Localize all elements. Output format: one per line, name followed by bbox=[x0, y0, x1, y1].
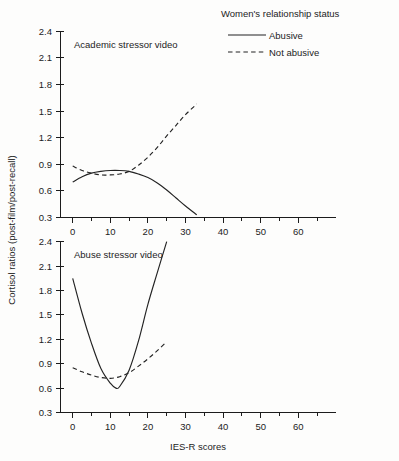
top-x-label-10: 10 bbox=[105, 226, 116, 237]
top-x-label-20: 20 bbox=[143, 226, 154, 237]
bottom-x-label-50: 50 bbox=[255, 421, 266, 432]
chart-svg: Women's relationship status Abusive Not … bbox=[0, 0, 399, 461]
legend-title: Women's relationship status bbox=[221, 8, 340, 19]
bottom-y-label-0.6: 0.6 bbox=[39, 383, 52, 394]
top-y-tick-labels: 0.3 0.6 0.9 1.2 1.5 1.8 2.1 2.4 bbox=[39, 26, 52, 223]
top-x-label-50: 50 bbox=[255, 226, 266, 237]
legend-entry-not-abusive: Not abusive bbox=[228, 47, 319, 58]
bottom-y-tick-labels: 0.3 0.6 0.9 1.2 1.5 1.8 2.1 2.4 bbox=[39, 236, 52, 418]
top-y-label-0.6: 0.6 bbox=[39, 185, 52, 196]
bottom-y-label-0.3: 0.3 bbox=[39, 407, 52, 418]
series-line-not-abusive-academic bbox=[73, 104, 197, 175]
figure-container: Women's relationship status Abusive Not … bbox=[0, 0, 399, 461]
bottom-y-label-2.4: 2.4 bbox=[39, 236, 52, 247]
y-axis-title: Cortisol ratios (post-film/post-recall) bbox=[6, 155, 17, 304]
bottom-y-label-1.2: 1.2 bbox=[39, 334, 52, 345]
top-y-label-0.3: 0.3 bbox=[39, 212, 52, 223]
top-y-label-1.5: 1.5 bbox=[39, 106, 52, 117]
bottom-x-ticks bbox=[73, 413, 317, 419]
top-y-label-1.8: 1.8 bbox=[39, 79, 52, 90]
series-line-abusive-abuse bbox=[73, 242, 167, 389]
bottom-y-label-1.5: 1.5 bbox=[39, 309, 52, 320]
panel-abuse-stressor: Abuse stressor video 0.3 0.6 0.9 1.2 1.5… bbox=[39, 236, 336, 452]
bottom-x-label-20: 20 bbox=[143, 421, 154, 432]
top-y-label-2.1: 2.1 bbox=[39, 52, 52, 63]
panel-title-academic: Academic stressor video bbox=[74, 39, 177, 50]
top-y-label-1.2: 1.2 bbox=[39, 132, 52, 143]
bottom-y-label-1.8: 1.8 bbox=[39, 285, 52, 296]
bottom-x-label-30: 30 bbox=[180, 421, 191, 432]
bottom-x-tick-labels: 0 10 20 30 40 50 60 bbox=[70, 421, 304, 432]
top-x-label-60: 60 bbox=[293, 226, 304, 237]
top-y-label-0.9: 0.9 bbox=[39, 159, 52, 170]
bottom-y-label-0.9: 0.9 bbox=[39, 358, 52, 369]
bottom-x-label-10: 10 bbox=[105, 421, 116, 432]
panel-title-abuse: Abuse stressor video bbox=[74, 249, 163, 260]
top-x-label-0: 0 bbox=[70, 226, 75, 237]
legend-entry-abusive: Abusive bbox=[228, 30, 303, 41]
bottom-y-label-2.1: 2.1 bbox=[39, 261, 52, 272]
bottom-x-label-40: 40 bbox=[218, 421, 229, 432]
legend-label-abusive: Abusive bbox=[269, 30, 303, 41]
top-x-label-40: 40 bbox=[218, 226, 229, 237]
top-y-label-2.4: 2.4 bbox=[39, 26, 52, 37]
legend-label-not-abusive: Not abusive bbox=[269, 47, 319, 58]
top-x-tick-labels: 0 10 20 30 40 50 60 bbox=[70, 226, 304, 237]
legend: Women's relationship status Abusive Not … bbox=[221, 8, 340, 58]
bottom-x-label-60: 60 bbox=[293, 421, 304, 432]
top-x-ticks bbox=[73, 218, 317, 224]
top-x-label-30: 30 bbox=[180, 226, 191, 237]
series-line-not-abusive-abuse bbox=[73, 342, 167, 379]
x-axis-title: IES-R scores bbox=[170, 441, 226, 452]
series-line-abusive-academic bbox=[73, 170, 197, 214]
bottom-x-label-0: 0 bbox=[70, 421, 75, 432]
